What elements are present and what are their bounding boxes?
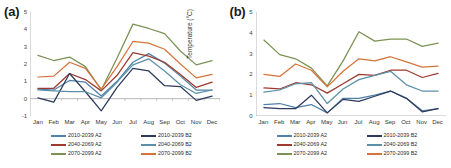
series-line-2070-2099-b2 bbox=[263, 57, 437, 87]
x-axis-tick-label: Jan bbox=[256, 117, 272, 127]
y-axis-tick-label: 3 bbox=[24, 44, 27, 50]
legend-item-label: 2070-2099 B2 bbox=[158, 149, 192, 158]
legend-color-swatch bbox=[367, 153, 382, 155]
panel-a-label: (a) bbox=[4, 4, 19, 19]
legend-item[interactable]: 2010-2039 B2 bbox=[128, 131, 218, 140]
legend-item-label: 2070-2099 A2 bbox=[294, 149, 328, 158]
y-axis-tick-label: 0 bbox=[249, 113, 252, 119]
x-axis-tick-label: Feb bbox=[271, 117, 287, 127]
series-line-2070-2099-a2 bbox=[263, 32, 437, 86]
x-axis-tick-label: Sep bbox=[382, 117, 398, 127]
legend-item-label: 2070-2099 A2 bbox=[68, 149, 102, 158]
legend-color-swatch bbox=[141, 153, 156, 155]
x-axis-tick-label: Apr bbox=[303, 117, 319, 127]
y-axis-tick-label: 4 bbox=[24, 26, 27, 32]
x-axis-tick-label: Nov bbox=[188, 117, 204, 127]
x-axis-tick-label: Mar bbox=[62, 117, 78, 127]
x-axis-tick-label: Feb bbox=[46, 117, 62, 127]
x-axis-tick-label: Mar bbox=[287, 117, 303, 127]
panel-a-legend: 2010-2039 A22010-2039 B22040-2069 A22040… bbox=[38, 131, 218, 158]
legend-item-label: 2040-2069 B2 bbox=[384, 140, 418, 149]
y-axis-tick-label: 0 bbox=[24, 96, 27, 102]
x-axis-tick-label: Jun bbox=[335, 117, 351, 127]
x-axis-tick-label: May bbox=[93, 117, 109, 127]
legend-item[interactable]: 2070-2099 A2 bbox=[38, 149, 128, 158]
legend-item[interactable]: 2040-2069 A2 bbox=[264, 140, 354, 149]
legend-item[interactable]: 2010-2039 A2 bbox=[264, 131, 354, 140]
x-axis-tick-label: Jul bbox=[125, 117, 141, 127]
legend-color-swatch bbox=[51, 153, 66, 155]
x-axis-tick-label: Dec bbox=[204, 117, 220, 127]
legend-item-label: 2070-2099 B2 bbox=[384, 149, 418, 158]
panel-b-plot-area: 012345 bbox=[256, 12, 446, 116]
x-axis-tick-label: Nov bbox=[414, 117, 430, 127]
legend-color-swatch bbox=[51, 135, 66, 137]
panel-b-label: (b) bbox=[230, 4, 246, 19]
legend-color-swatch bbox=[277, 153, 292, 155]
legend-color-swatch bbox=[367, 144, 382, 146]
x-axis-tick-label: Apr bbox=[77, 117, 93, 127]
legend-item[interactable]: 2040-2069 A2 bbox=[38, 140, 128, 149]
panel-b-legend: 2010-2039 A22010-2039 B22040-2069 A22040… bbox=[264, 131, 444, 158]
y-axis-tick-label: 5 bbox=[24, 9, 27, 15]
x-axis-tick-label: Jun bbox=[109, 117, 125, 127]
x-axis-tick-label: Dec bbox=[430, 117, 446, 127]
y-axis-tick-label: 2 bbox=[24, 61, 27, 67]
legend-item-label: 2040-2069 B2 bbox=[158, 140, 192, 149]
y-axis-tick-label: 5 bbox=[249, 9, 252, 15]
legend-item-label: 2010-2039 B2 bbox=[384, 131, 418, 140]
legend-item[interactable]: 2070-2099 B2 bbox=[354, 149, 444, 158]
panel-b-x-axis-ticks: JanFebMarAprMayJunJulAugSepOctNovDec bbox=[256, 117, 446, 127]
legend-color-swatch bbox=[277, 144, 292, 146]
legend-color-swatch bbox=[141, 135, 156, 137]
legend-item-label: 2010-2039 A2 bbox=[294, 131, 328, 140]
legend-item[interactable]: 2070-2099 A2 bbox=[264, 149, 354, 158]
y-axis-tick-label: 1 bbox=[24, 78, 27, 84]
series-line-2040-2069-a2 bbox=[263, 70, 437, 93]
y-axis-tick-label: 3 bbox=[249, 51, 252, 57]
x-axis-tick-label: Aug bbox=[366, 117, 382, 127]
legend-item-label: 2010-2039 A2 bbox=[68, 131, 102, 140]
x-axis-tick-label: Oct bbox=[398, 117, 414, 127]
legend-color-swatch bbox=[367, 135, 382, 137]
legend-item[interactable]: 2070-2099 B2 bbox=[128, 149, 218, 158]
x-axis-tick-label: May bbox=[319, 117, 335, 127]
panel-a-x-axis-ticks: JanFebMarAprMayJunJulAugSepOctNovDec bbox=[30, 117, 220, 127]
x-axis-tick-label: Jan bbox=[30, 117, 46, 127]
legend-color-swatch bbox=[277, 135, 292, 137]
x-axis-tick-label: Sep bbox=[157, 117, 173, 127]
x-axis-tick-label: Aug bbox=[141, 117, 157, 127]
legend-item[interactable]: 2010-2039 B2 bbox=[354, 131, 444, 140]
y-axis-tick-label: 4 bbox=[249, 30, 252, 36]
panel-b-y-axis-label: Temperature (°C) bbox=[186, 0, 198, 78]
figure-two-panel-line-charts: (a) Temperature (°C) -1012345 JanFebMarA… bbox=[0, 0, 451, 168]
y-axis-tick-label: 1 bbox=[249, 92, 252, 98]
panel-b: (b) Temperature (°C) 012345 JanFebMarApr… bbox=[226, 0, 451, 168]
legend-item[interactable]: 2010-2039 A2 bbox=[38, 131, 128, 140]
series-line-2010-2039-a2 bbox=[263, 91, 437, 113]
legend-item-label: 2040-2069 A2 bbox=[294, 140, 328, 149]
y-axis-tick-label: -1 bbox=[22, 113, 27, 119]
legend-item-label: 2010-2039 B2 bbox=[158, 131, 192, 140]
y-axis-tick-label: 2 bbox=[249, 71, 252, 77]
legend-color-swatch bbox=[141, 144, 156, 146]
legend-item-label: 2040-2069 A2 bbox=[68, 140, 102, 149]
legend-item[interactable]: 2040-2069 B2 bbox=[128, 140, 218, 149]
x-axis-tick-label: Jul bbox=[350, 117, 366, 127]
x-axis-tick-label: Oct bbox=[172, 117, 188, 127]
panel-b-lines-svg bbox=[256, 12, 446, 116]
legend-item[interactable]: 2040-2069 B2 bbox=[354, 140, 444, 149]
legend-color-swatch bbox=[51, 144, 66, 146]
